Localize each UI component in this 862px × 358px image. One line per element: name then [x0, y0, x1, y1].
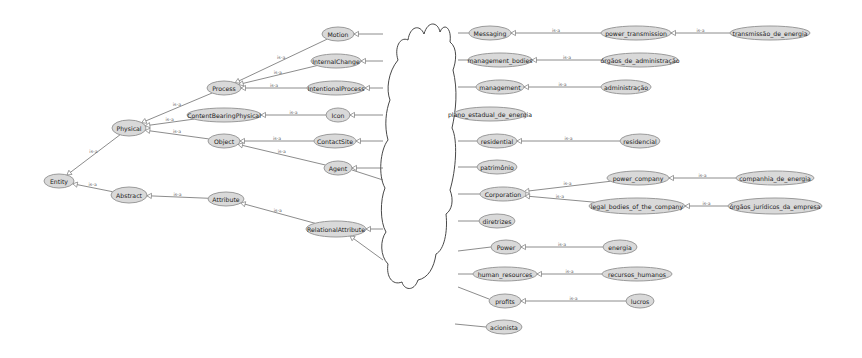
- cloud-stub-left: [361, 58, 383, 63]
- arrowhead-icon: [235, 78, 240, 83]
- arrowhead-icon: [537, 271, 542, 276]
- concept-node-companhia-de-energia[interactable]: companhia_de_energia: [736, 171, 814, 185]
- is-a-edge: is-a: [261, 110, 326, 118]
- edge-label: is-a: [273, 136, 281, 141]
- concept-node-abstract[interactable]: Abstract: [111, 187, 147, 203]
- concept-node-lucros[interactable]: lucros: [626, 294, 654, 308]
- edge-label: is-a: [278, 149, 286, 154]
- concept-node-management[interactable]: management: [476, 80, 524, 94]
- concept-node-patrimonio[interactable]: patrimônio: [477, 160, 517, 174]
- arrowhead-icon: [669, 175, 674, 180]
- node-label: Object: [214, 138, 235, 146]
- edge-label: is-a: [166, 117, 174, 122]
- concept-node-orgaos-de-administracao[interactable]: órgãos_de_administração: [601, 53, 680, 67]
- node-label: management_bodies: [468, 57, 533, 65]
- edge-label: is-a: [702, 201, 710, 206]
- concept-node-power-company[interactable]: power_company: [607, 171, 669, 185]
- concept-node-human-resources[interactable]: human_resources: [473, 267, 537, 281]
- edge-label: is-a: [270, 83, 278, 88]
- cloud-stub-left: [356, 138, 383, 143]
- is-a-edge: is-a: [521, 242, 603, 250]
- concept-node-object[interactable]: Object: [208, 134, 240, 148]
- arrowhead-icon: [361, 58, 366, 63]
- edge-label: is-a: [89, 149, 97, 154]
- concept-node-acionista[interactable]: acionista: [486, 320, 522, 334]
- concept-node-transmissao-de-energia[interactable]: transmissão_de_energia: [730, 26, 810, 40]
- arrowhead-icon: [261, 112, 266, 117]
- node-label: órgãos_jurídicos_da_empresa: [730, 203, 821, 211]
- arrowhead-icon: [350, 236, 355, 241]
- concept-node-contentbearingphysical[interactable]: ContentBearingPhysical: [187, 108, 261, 122]
- concept-node-process[interactable]: Process: [207, 81, 241, 95]
- is-a-edge: is-a: [238, 143, 325, 165]
- is-a-edge: is-a: [524, 82, 601, 90]
- node-label: Motion: [328, 31, 349, 38]
- concept-node-recursos-humanos[interactable]: recursos_humanos: [602, 267, 672, 281]
- is-a-edge: is-a: [145, 128, 208, 139]
- edge-label: is-a: [173, 129, 181, 134]
- node-label: Messaging: [474, 30, 507, 38]
- cloud-stub-left: [350, 112, 383, 117]
- concept-node-agent[interactable]: Agent: [324, 161, 352, 175]
- concept-node-plano-estadual-de-energia[interactable]: plano_estadual_de_energia: [448, 107, 532, 121]
- edge-label: is-a: [173, 192, 181, 197]
- arrowhead-icon: [521, 244, 526, 249]
- concept-node-corporation[interactable]: Corporation: [480, 187, 526, 201]
- node-label: Corporation: [485, 191, 522, 199]
- node-label: Power: [497, 244, 516, 251]
- node-label: administração: [604, 84, 648, 92]
- concept-node-intentionalprocess[interactable]: IntentionalProcess: [307, 81, 365, 95]
- concept-node-physical[interactable]: Physical: [112, 120, 146, 136]
- node-label: Physical: [116, 125, 141, 133]
- concept-node-energia[interactable]: energia: [603, 240, 637, 254]
- is-a-edge: is-a: [67, 135, 120, 175]
- node-label: patrimônio: [480, 164, 514, 172]
- cloud-icon: [381, 24, 456, 289]
- concept-node-legal-bodies-of-the-company[interactable]: legal_bodies_of_the_company: [589, 198, 685, 214]
- arrowhead-icon: [147, 193, 152, 198]
- edge-label: is-a: [274, 208, 282, 213]
- node-label: órgãos_de_administração: [601, 57, 680, 65]
- concept-node-orgaos-juridicos-da-empresa[interactable]: órgãos_jurídicos_da_empresa: [728, 198, 822, 214]
- ontology-diagram: is-ais-ais-ais-ais-ais-ais-ais-ais-ais-a…: [0, 0, 862, 358]
- edge-label: is-a: [89, 182, 97, 187]
- cloud-stub-left: [354, 31, 383, 36]
- node-label: diretrizes: [483, 218, 512, 225]
- arrowhead-icon: [354, 31, 359, 36]
- concept-node-motion[interactable]: Motion: [322, 27, 354, 41]
- is-a-edge: is-a: [671, 28, 730, 36]
- concept-node-profits[interactable]: profits: [489, 294, 521, 308]
- concept-node-management-bodies[interactable]: management_bodies: [468, 53, 533, 67]
- node-label: energia: [608, 244, 632, 252]
- concept-node-power-transmission[interactable]: power_transmission: [601, 26, 671, 40]
- node-label: ContactSite: [317, 138, 353, 145]
- concept-node-power[interactable]: Power: [491, 240, 521, 254]
- node-label: InternalChange: [312, 58, 360, 66]
- arrowhead-icon: [67, 170, 72, 175]
- arrowhead-icon: [511, 30, 516, 35]
- concept-node-residencial[interactable]: residencial: [620, 134, 660, 148]
- concept-node-internalchange[interactable]: InternalChange: [311, 54, 361, 68]
- concept-node-icon[interactable]: Icon: [326, 108, 350, 122]
- is-a-edge: is-a: [537, 269, 602, 277]
- concept-node-attribute[interactable]: Attribute: [208, 192, 244, 206]
- cloud-stub-left: [365, 85, 383, 90]
- node-label: Icon: [332, 112, 345, 119]
- node-label: residential: [481, 138, 514, 145]
- concept-node-entity[interactable]: Entity: [44, 174, 74, 188]
- edge-label: is-a: [696, 28, 704, 33]
- concept-node-administracao[interactable]: administração: [601, 80, 651, 94]
- concept-node-residential[interactable]: residential: [477, 134, 517, 148]
- edge-label: is-a: [563, 181, 571, 186]
- concept-node-messaging[interactable]: Messaging: [469, 26, 511, 40]
- concept-node-contactsite[interactable]: ContactSite: [314, 134, 356, 148]
- concept-node-relationalattribute[interactable]: RelationalAttribute: [306, 221, 366, 237]
- is-a-edge: is-a: [240, 136, 314, 144]
- arrowhead-icon: [365, 85, 370, 90]
- node-label: transmissão_de_energia: [732, 30, 807, 38]
- node-label: Process: [212, 85, 235, 92]
- node-label: companhia_de_energia: [739, 175, 811, 183]
- concept-node-diretrizes[interactable]: diretrizes: [479, 214, 515, 228]
- edge-label: is-a: [564, 136, 572, 141]
- is-a-edge: is-a: [521, 296, 626, 304]
